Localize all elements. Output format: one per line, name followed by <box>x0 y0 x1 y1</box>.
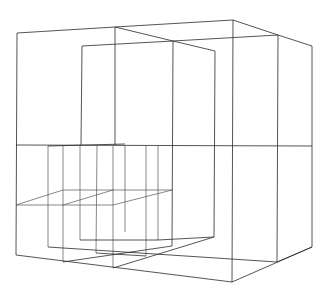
wireframe-edge <box>173 35 278 41</box>
wireframe-edge <box>82 41 173 46</box>
wireframe-edge <box>113 190 172 205</box>
wireframe-edge <box>172 41 173 246</box>
outer-box-vertical-edges <box>16 20 312 282</box>
wireframe-edge <box>277 247 312 262</box>
wireframe-edge <box>16 255 232 282</box>
lower-grid-shelf-edges <box>16 190 172 205</box>
wireframe-edge <box>96 146 97 253</box>
bottom-edges <box>16 237 312 282</box>
wireframe-edge <box>16 190 63 205</box>
wireframe-edge <box>277 35 278 262</box>
wireframe-edge <box>63 190 113 205</box>
wireframe-edge <box>233 20 278 35</box>
wireframe-edge <box>115 27 173 41</box>
wireframe-edge <box>278 35 312 46</box>
wireframe-edge <box>232 20 233 282</box>
wireframe-edge <box>115 20 233 27</box>
wireframe-edge <box>173 41 215 51</box>
wireframe-edge <box>214 51 215 237</box>
wireframe-diagram <box>0 0 327 296</box>
lower-cell-vertical-edges <box>48 146 158 268</box>
wireframe-edge <box>48 247 277 262</box>
wireframe-svg <box>0 0 327 296</box>
wireframe-edge <box>17 27 115 33</box>
outer-box-top-edges <box>17 20 312 51</box>
wireframe-edge <box>16 33 17 255</box>
mid-plane-edges <box>16 144 312 146</box>
wireframe-edge <box>81 46 82 145</box>
